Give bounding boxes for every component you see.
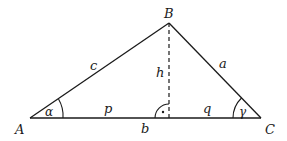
side-a-line — [169, 23, 261, 118]
vertex-label-a: A — [14, 122, 24, 137]
triangle-diagram: B A C c a b h p q α γ — [0, 0, 287, 141]
diagram-canvas: B A C c a b h p q α γ — [0, 0, 287, 141]
angle-label-gamma: γ — [239, 105, 247, 119]
segment-label-p: p — [104, 101, 113, 116]
side-label-a: a — [219, 56, 227, 71]
side-label-c: c — [90, 58, 98, 73]
vertex-label-b: B — [163, 6, 174, 21]
side-label-b: b — [141, 121, 149, 136]
right-angle-dot — [162, 111, 164, 113]
altitude-label-h: h — [156, 65, 164, 80]
angle-alpha-arc — [59, 99, 64, 118]
side-c-line — [30, 23, 169, 118]
angle-label-alpha: α — [45, 105, 53, 119]
vertex-label-c: C — [265, 122, 275, 137]
right-angle-arc — [155, 104, 169, 118]
segment-label-q: q — [203, 101, 211, 116]
